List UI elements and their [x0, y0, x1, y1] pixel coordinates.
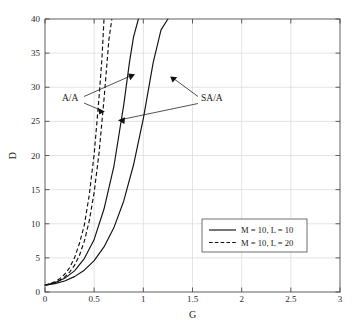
y-tick-label: 30 — [31, 82, 41, 92]
y-tick-label: 10 — [31, 219, 41, 229]
y-tick-label: 40 — [31, 14, 41, 24]
annotation-label-aa: A/A — [62, 93, 79, 103]
x-tick-label: 2 — [239, 294, 244, 304]
x-tick-labels: 0 0.5 1 1.5 2 2.5 3 — [43, 294, 343, 304]
x-axis-title: G — [189, 309, 196, 320]
y-tick-labels: 0 5 10 15 20 25 30 35 40 — [31, 14, 41, 297]
x-tick-label: 0.5 — [89, 294, 101, 304]
chart-svg: 0 0.5 1 1.5 2 2.5 3 0 5 10 15 20 25 30 3… — [0, 0, 354, 334]
legend[interactable]: M = 10, L = 10 M = 10, L = 20 — [202, 219, 307, 252]
y-tick-label: 15 — [31, 185, 41, 195]
x-tick-label: 2.5 — [285, 294, 297, 304]
x-tick-label: 1 — [141, 294, 146, 304]
y-tick-label: 0 — [36, 287, 41, 297]
y-tick-label: 5 — [36, 253, 41, 263]
legend-entry-label-1: M = 10, L = 10 — [241, 225, 293, 235]
y-axis-title: D — [7, 152, 18, 159]
x-tick-label: 1.5 — [187, 294, 199, 304]
y-tick-label: 35 — [31, 48, 41, 58]
y-tick-label: 25 — [31, 116, 41, 126]
x-tick-label: 0 — [43, 294, 48, 304]
annotation-label-saa: SA/A — [201, 93, 223, 103]
x-tick-label: 3 — [338, 294, 343, 304]
legend-entry-label-2: M = 10, L = 20 — [241, 238, 293, 248]
figure-container: 0 0.5 1 1.5 2 2.5 3 0 5 10 15 20 25 30 3… — [0, 0, 354, 334]
y-tick-label: 20 — [31, 151, 41, 161]
